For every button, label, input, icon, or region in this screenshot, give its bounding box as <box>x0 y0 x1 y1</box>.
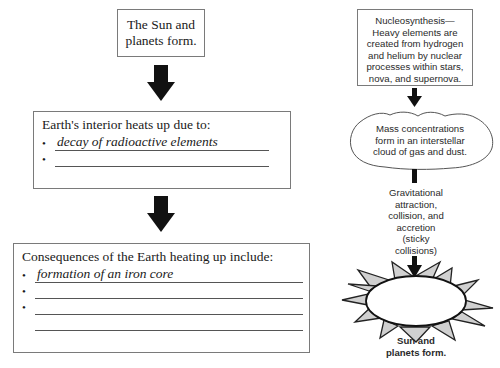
grav-line: attraction, <box>370 199 462 211</box>
answer-line[interactable] <box>35 300 303 315</box>
answer-text: decay of radioactive elements <box>57 135 218 149</box>
grav-line: (sticky <box>370 233 462 245</box>
grav-line: collision, and <box>370 210 462 222</box>
cloud-line: form in an interstellar <box>355 135 485 147</box>
down-arrow-icon <box>147 196 175 232</box>
connector-bar <box>412 169 417 183</box>
cloud-line: Mass concentrations <box>355 123 485 135</box>
nuc-line: nova, and supernova. <box>358 73 472 85</box>
answer-line[interactable] <box>55 152 269 167</box>
earth-interior-heats-box: Earth's interior heats up due to: • deca… <box>33 111 291 189</box>
answer-line[interactable] <box>35 284 303 299</box>
cloud-text: Mass concentrations form in an interstel… <box>355 123 485 158</box>
nuc-line: processes within stars, <box>358 61 472 73</box>
consequences-box: Consequences of the Earth heating up inc… <box>13 243 310 353</box>
consequence-bullet-1: • formation of an iron core <box>22 268 307 282</box>
heat-box-heading: Earth's interior heats up due to: <box>42 117 211 133</box>
answer-line[interactable]: decay of radioactive elements <box>55 136 269 151</box>
down-arrow-icon <box>147 65 175 101</box>
bullet-dot: • <box>42 136 46 150</box>
top-box-line1: The Sun and <box>118 17 204 33</box>
grav-line: accretion <box>370 222 462 234</box>
nucleosynthesis-box: Nucleosynthesis— Heavy elements are crea… <box>357 9 473 86</box>
gravitation-text: Gravitational attraction, collision, and… <box>370 187 462 257</box>
bullet-dot: • <box>22 284 26 298</box>
down-arrow-icon <box>407 88 422 107</box>
consequence-bullet-3: • <box>22 300 307 314</box>
bullet-dot: • <box>22 268 26 282</box>
bullet-dot: • <box>42 152 46 166</box>
sun-body <box>366 276 466 326</box>
answer-line[interactable]: formation of an iron core <box>35 268 303 283</box>
nuc-line: and helium by nuclear <box>358 50 472 62</box>
consequences-heading: Consequences of the Earth heating up inc… <box>22 249 273 265</box>
grav-line: Gravitational <box>370 187 462 199</box>
cloud-line: cloud of gas and dust. <box>355 146 485 158</box>
heat-bullet-1: • decay of radioactive elements <box>42 136 282 150</box>
consequence-extra-line <box>22 316 307 330</box>
grav-line: collisions) <box>370 245 462 257</box>
nuc-line: created from hydrogen <box>358 38 472 50</box>
consequence-bullet-2: • <box>22 284 307 298</box>
nuc-line: Nucleosynthesis— <box>358 15 472 27</box>
nuc-line: Heavy elements are <box>358 27 472 39</box>
top-box-line2: planets form. <box>118 33 204 49</box>
heat-bullet-2: • <box>42 152 282 166</box>
sun-label-line1: Sun and <box>370 335 462 347</box>
sun-label: Sun and planets form. <box>370 335 462 358</box>
sun-planets-form-box: The Sun and planets form. <box>117 9 205 57</box>
answer-text: formation of an iron core <box>37 267 173 281</box>
bullet-dot: • <box>22 300 26 314</box>
sun-label-line2: planets form. <box>370 347 462 359</box>
answer-line[interactable] <box>35 316 303 331</box>
